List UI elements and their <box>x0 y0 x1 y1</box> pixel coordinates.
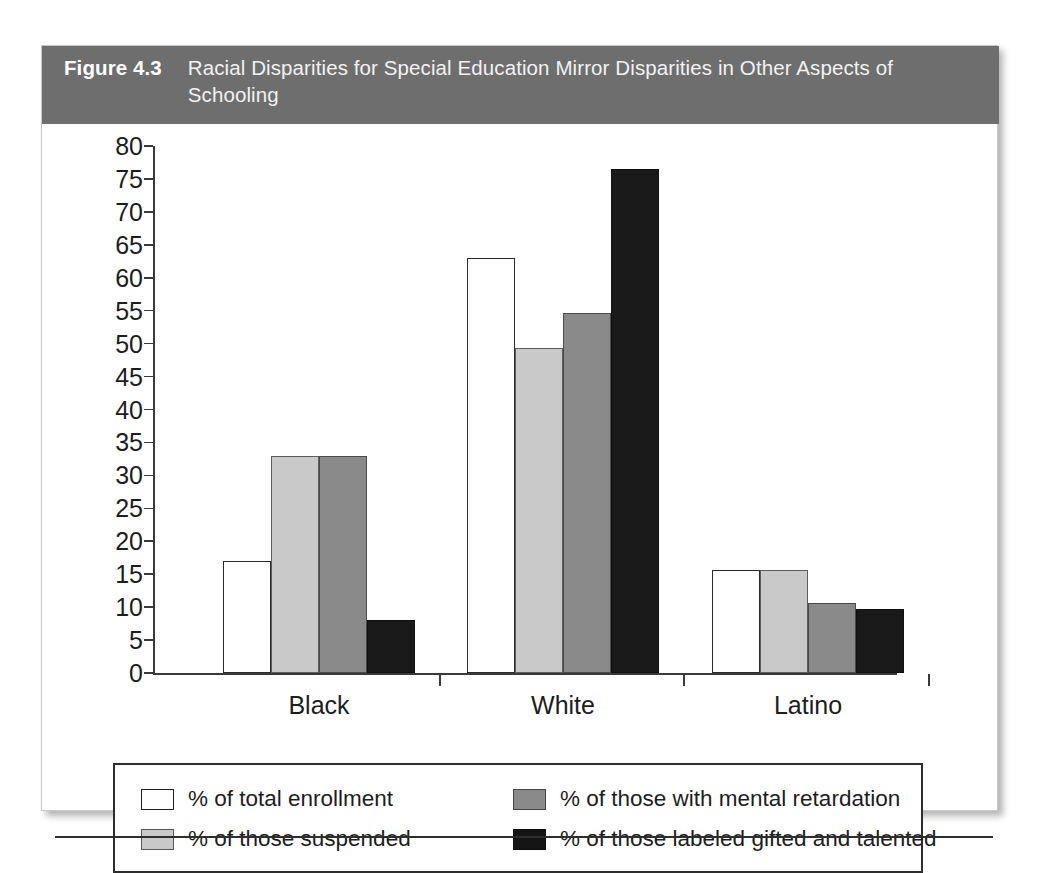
x-axis-category-label: Black <box>229 691 409 720</box>
x-axis-category-label: Latino <box>718 691 898 720</box>
x-axis-group-tick <box>683 674 685 686</box>
y-axis-tick-mark <box>144 672 153 674</box>
x-axis-line <box>153 673 897 675</box>
legend-label: % of those labeled gifted and talented <box>560 826 937 852</box>
y-axis-tick-mark <box>144 540 153 542</box>
y-axis-tick-mark <box>144 442 153 444</box>
bar-latino-series-0 <box>712 570 760 673</box>
legend-item: % of those with mental retardation <box>513 786 937 812</box>
y-axis-tick-mark <box>144 343 153 345</box>
legend-label: % of those suspended <box>188 826 411 852</box>
bar-white-series-2 <box>563 313 611 673</box>
bar-latino-series-3 <box>856 609 904 673</box>
legend-swatch-series-3 <box>513 829 546 850</box>
bar-black-series-3 <box>367 620 415 673</box>
bar-white-series-3 <box>611 169 659 673</box>
x-axis-group-tick <box>928 674 930 686</box>
y-axis-tick-mark <box>144 475 153 477</box>
chart-plot-area: 05101520253035404550556065707580 BlackWh… <box>42 124 999 812</box>
x-axis-group-tick <box>439 674 441 686</box>
bar-white-series-0 <box>467 258 515 673</box>
y-axis-tick-mark <box>144 145 153 147</box>
legend-grid: % of total enrollment% of those with men… <box>141 779 921 859</box>
y-axis-tick-mark <box>144 244 153 246</box>
chart-legend: % of total enrollment% of those with men… <box>113 763 923 873</box>
page-bottom-rule <box>55 836 993 838</box>
figure-card: Figure 4.3 Racial Disparities for Specia… <box>41 45 998 811</box>
y-axis-tick-mark <box>144 508 153 510</box>
figure-number-label: Figure 4.3 <box>64 55 162 80</box>
y-axis-tick-mark <box>144 409 153 411</box>
y-axis-tick-mark <box>144 573 153 575</box>
legend-swatch-series-0 <box>141 789 174 810</box>
y-axis-tick-mark <box>144 310 153 312</box>
y-axis-tick-mark <box>144 639 153 641</box>
figure-title-text: Racial Disparities for Special Education… <box>188 55 978 108</box>
y-axis-line <box>153 146 155 673</box>
legend-item: % of total enrollment <box>141 786 513 812</box>
y-axis-tick-mark <box>144 606 153 608</box>
bar-latino-series-1 <box>760 570 808 673</box>
y-axis-tick-mark <box>144 277 153 279</box>
figure-header-banner: Figure 4.3 Racial Disparities for Specia… <box>42 46 999 124</box>
bar-black-series-0 <box>223 561 271 673</box>
legend-swatch-series-2 <box>513 789 546 810</box>
legend-label: % of those with mental retardation <box>560 786 900 812</box>
bar-latino-series-2 <box>808 603 856 673</box>
legend-label: % of total enrollment <box>188 786 393 812</box>
legend-item: % of those suspended <box>141 826 513 852</box>
y-axis-tick-mark <box>144 376 153 378</box>
bar-black-series-2 <box>319 456 367 673</box>
legend-swatch-series-1 <box>141 829 174 850</box>
y-axis-tick-mark <box>144 211 153 213</box>
legend-item: % of those labeled gifted and talented <box>513 826 937 852</box>
bar-black-series-1 <box>271 456 319 673</box>
bar-white-series-1 <box>515 348 563 673</box>
x-axis-category-label: White <box>473 691 653 720</box>
y-axis-tick-mark <box>144 178 153 180</box>
